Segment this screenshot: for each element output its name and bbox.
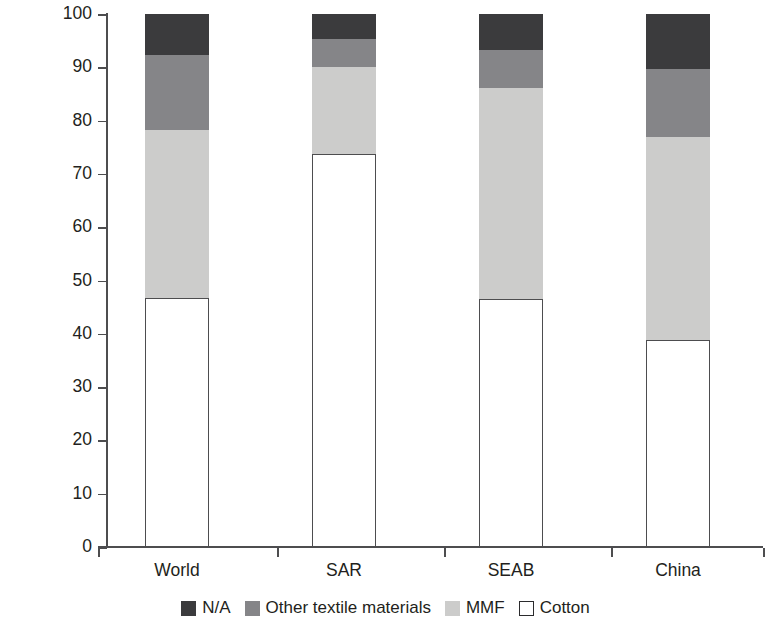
bar-segment-n-a[interactable] <box>312 14 376 39</box>
bar-segment-other-textile-materials[interactable] <box>479 50 543 88</box>
bar-segment-mmf[interactable] <box>145 130 209 298</box>
legend-label: Cotton <box>540 598 590 618</box>
legend-label: MMF <box>466 598 505 618</box>
legend-swatch-cotton-icon <box>519 601 534 616</box>
x-tick-mark <box>763 548 765 557</box>
y-tick-label: 20 <box>46 431 92 449</box>
x-category-label-china: China <box>598 560 758 580</box>
y-tick-label: 0 <box>46 538 92 556</box>
y-tick-label: 30 <box>46 378 92 396</box>
y-tick-label: 40 <box>46 325 92 343</box>
legend-swatch-mmf-icon <box>445 601 460 616</box>
y-tick-label: 90 <box>46 58 92 76</box>
bar-segment-cotton[interactable] <box>312 154 376 547</box>
bar-segment-n-a[interactable] <box>646 14 710 69</box>
x-tick-mark <box>277 548 279 557</box>
x-category-label-sar: SAR <box>264 560 424 580</box>
legend-swatch-other-icon <box>245 601 260 616</box>
legend-label: N/A <box>202 598 230 618</box>
x-category-label-world: World <box>97 560 257 580</box>
bar-segment-cotton[interactable] <box>479 299 543 547</box>
bar-segment-other-textile-materials[interactable] <box>312 39 376 67</box>
bar-segment-other-textile-materials[interactable] <box>145 55 209 130</box>
bar-segment-other-textile-materials[interactable] <box>646 69 710 137</box>
plot-area: 0102030405060708090100 WorldSARSEABChina <box>0 0 771 560</box>
bar-segment-mmf[interactable] <box>312 67 376 154</box>
x-tick-mark <box>444 548 446 557</box>
legend-swatch-na-icon <box>181 601 196 616</box>
x-tick-mark <box>611 548 613 557</box>
bar-segment-n-a[interactable] <box>479 14 543 50</box>
legend-label: Other textile materials <box>266 598 431 618</box>
bar-seab[interactable] <box>479 14 543 547</box>
x-category-label-seab: SEAB <box>431 560 591 580</box>
stacked-bar-chart: Material share of apparel exports, 2012 … <box>0 0 771 629</box>
y-axis-tick-labels: 0102030405060708090100 <box>46 0 92 560</box>
legend-item[interactable]: N/A <box>181 598 230 618</box>
legend-item[interactable]: MMF <box>445 598 505 618</box>
bar-segment-mmf[interactable] <box>479 88 543 299</box>
bar-segment-n-a[interactable] <box>145 14 209 55</box>
bar-segment-mmf[interactable] <box>646 137 710 340</box>
bar-segment-cotton[interactable] <box>145 298 209 547</box>
legend-item[interactable]: Other textile materials <box>245 598 431 618</box>
y-tick-label: 50 <box>46 272 92 290</box>
chart-legend: N/AOther textile materialsMMFCotton <box>0 598 771 618</box>
bar-sar[interactable] <box>312 14 376 547</box>
y-tick-label: 70 <box>46 165 92 183</box>
y-tick-label: 100 <box>46 5 92 23</box>
bar-china[interactable] <box>646 14 710 547</box>
y-tick-label: 10 <box>46 485 92 503</box>
y-axis-line <box>106 13 108 547</box>
y-tick-label: 60 <box>46 218 92 236</box>
legend-item[interactable]: Cotton <box>519 598 590 618</box>
bar-world[interactable] <box>145 14 209 547</box>
y-tick-label: 80 <box>46 112 92 130</box>
x-tick-mark <box>98 548 100 557</box>
bar-segment-cotton[interactable] <box>646 340 710 547</box>
